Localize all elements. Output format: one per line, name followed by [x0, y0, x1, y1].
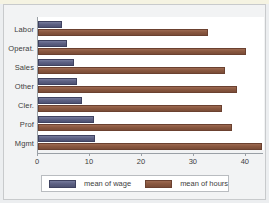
legend-label-wage: mean of wage [84, 179, 131, 188]
bar-wage [38, 78, 77, 85]
category-label: Sales [15, 62, 34, 71]
bar-row: Operat. [38, 38, 266, 57]
legend-entry-wage: mean of wage [49, 176, 131, 191]
category-label: Mgmt [15, 139, 34, 148]
bar-wage [38, 40, 67, 47]
bar-row: Mgmt [38, 134, 266, 153]
bar-hours [38, 48, 246, 55]
bar-hours [38, 86, 237, 93]
bar-row: Cler. [38, 95, 266, 114]
x-tick-label: 30 [189, 157, 197, 166]
x-tick-mark [141, 153, 142, 156]
category-label: Labor [14, 24, 34, 33]
bar-wage [38, 59, 74, 66]
category-label: Cler. [18, 100, 34, 109]
plot-area: LaborOperat.SalesOtherCler.ProfMgmt [4, 5, 267, 155]
wage-swatch-icon [49, 180, 76, 188]
x-tick-label: 40 [241, 157, 249, 166]
chart-screenshot: LaborOperat.SalesOtherCler.ProfMgmt 0102… [0, 0, 269, 203]
bar-wage [38, 97, 82, 104]
bar-row: Prof [38, 114, 266, 133]
bar-hours [38, 105, 222, 112]
chart-figure: LaborOperat.SalesOtherCler.ProfMgmt 0102… [3, 4, 266, 200]
chart-legend: mean of wage mean of hours [41, 175, 229, 192]
category-label: Prof [20, 120, 34, 129]
bar-row: Sales [38, 57, 266, 76]
legend-entry-hours: mean of hours [145, 176, 228, 191]
x-tick-mark [37, 153, 38, 156]
x-axis-ticks: 010203040 [37, 153, 263, 171]
hours-swatch-icon [145, 180, 172, 188]
legend-label-hours: mean of hours [180, 179, 228, 188]
bar-hours [38, 124, 232, 131]
bar-wage [38, 116, 94, 123]
bar-wage [38, 135, 95, 142]
x-tick-mark [89, 153, 90, 156]
x-tick-mark [245, 153, 246, 156]
bar-hours [38, 67, 225, 74]
category-label: Other [15, 81, 34, 90]
bar-row: Other [38, 76, 266, 95]
bar-rows: LaborOperat.SalesOtherCler.ProfMgmt [38, 19, 266, 153]
bar-wage [38, 21, 62, 28]
bar-row: Labor [38, 19, 266, 38]
category-label: Operat. [8, 43, 34, 52]
bar-hours [38, 143, 262, 150]
bar-hours [38, 29, 208, 36]
x-tick-label: 0 [35, 157, 39, 166]
x-tick-mark [193, 153, 194, 156]
x-tick-label: 20 [137, 157, 145, 166]
x-tick-label: 10 [85, 157, 93, 166]
